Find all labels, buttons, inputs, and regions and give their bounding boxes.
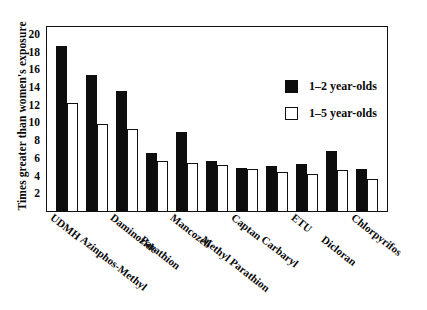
bar-age-1-5 xyxy=(277,172,288,211)
y-tick-label: 8 xyxy=(34,135,40,147)
bar-age-1-5 xyxy=(307,174,318,211)
y-tick-label: 6 xyxy=(34,153,40,165)
y-tick-label: 4 xyxy=(34,171,40,183)
bar-age-1-2 xyxy=(176,132,187,211)
legend-label: 1–2 year-olds xyxy=(309,79,377,94)
legend-swatch-filled-icon xyxy=(285,80,298,93)
y-tick-label: 10 xyxy=(29,118,41,130)
bar-age-1-5 xyxy=(157,161,168,211)
bar-age-1-5 xyxy=(217,165,228,211)
legend-label: 1–5 year-olds xyxy=(309,106,377,121)
x-tick-label: Carbaryl xyxy=(259,234,300,269)
bar-age-1-2 xyxy=(326,151,337,211)
bar-group xyxy=(82,27,112,211)
x-tick-label: Dicloran xyxy=(319,234,358,268)
x-tick-label: Parathion xyxy=(138,234,182,272)
x-axis-category-labels: UDMHAzinphos-MethylDaminozideParathionMa… xyxy=(46,212,388,310)
bar-age-1-2 xyxy=(266,166,277,211)
bar-age-1-2 xyxy=(356,169,367,211)
bar-age-1-2 xyxy=(236,168,247,211)
y-tick-label: 18 xyxy=(29,47,41,59)
bar-group xyxy=(232,27,262,211)
bar-age-1-5 xyxy=(337,170,348,211)
chart-legend: 1–2 year-olds1–5 year-olds xyxy=(285,79,377,133)
bar-age-1-2 xyxy=(116,91,127,211)
bar-age-1-2 xyxy=(296,164,307,211)
bar-age-1-2 xyxy=(206,161,217,211)
legend-item: 1–5 year-olds xyxy=(285,106,377,121)
bar-age-1-5 xyxy=(187,163,198,211)
bar-group xyxy=(112,27,142,211)
bar-age-1-5 xyxy=(67,103,78,211)
bar-group xyxy=(52,27,82,211)
y-tick-label: 12 xyxy=(29,100,41,112)
bar-group xyxy=(142,27,172,211)
legend-item: 1–2 year-olds xyxy=(285,79,377,94)
y-tick-label: 2 xyxy=(34,189,40,201)
bar-age-1-5 xyxy=(247,169,258,211)
bar-age-1-5 xyxy=(367,179,378,211)
y-tick-label: 20 xyxy=(29,29,41,41)
x-tick-label: Captan xyxy=(229,212,263,242)
bar-age-1-2 xyxy=(146,153,157,211)
plot-area: 1–2 year-olds1–5 year-olds xyxy=(46,26,388,212)
x-tick-label: ETU xyxy=(289,212,314,235)
bar-group xyxy=(202,27,232,211)
bar-age-1-5 xyxy=(127,129,138,211)
y-tick-label: 14 xyxy=(29,82,41,94)
bar-age-1-5 xyxy=(97,124,108,211)
bar-group xyxy=(172,27,202,211)
bar-age-1-2 xyxy=(86,75,97,211)
x-tick-label: UDMH xyxy=(48,212,82,242)
y-axis-tick-labels: 2468101214161820 xyxy=(0,26,44,212)
y-tick-label: 16 xyxy=(29,65,41,77)
bar-chart-figure: Times greater than women's exposure 2468… xyxy=(0,0,427,310)
x-tick-label: Chlorpyrifos xyxy=(350,212,404,258)
legend-swatch-open-icon xyxy=(285,107,298,120)
bar-age-1-2 xyxy=(56,46,67,211)
